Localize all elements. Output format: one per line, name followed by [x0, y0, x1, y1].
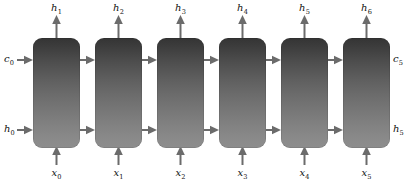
- input-arrow-1: [114, 146, 123, 165]
- output-label-h3: h3: [175, 3, 186, 16]
- rnn-cell-3: [219, 38, 266, 148]
- cell-state-arrow-2: [204, 56, 219, 65]
- input-label-x4: x4: [299, 168, 309, 181]
- cell-state-arrow-3: [266, 56, 281, 65]
- input-label-x5: x5: [361, 168, 371, 181]
- input-arrow-5: [362, 146, 371, 165]
- hidden-state-arrow-1: [142, 126, 157, 135]
- state-in-cell-label-c0: c0: [4, 54, 14, 67]
- hidden-state-arrow-3: [266, 126, 281, 135]
- output-arrow-5: [362, 15, 371, 38]
- input-label-x2: x2: [175, 168, 185, 181]
- input-arrow-0: [52, 146, 61, 165]
- input-label-x3: x3: [237, 168, 247, 181]
- output-arrow-2: [176, 15, 185, 38]
- hidden-state-arrow-in: [17, 126, 33, 135]
- output-label-h6: h6: [361, 3, 372, 16]
- input-arrow-4: [300, 146, 309, 165]
- hidden-state-arrow-4: [328, 126, 343, 135]
- cell-state-arrow-in: [17, 56, 33, 65]
- rnn-cell-0: [33, 38, 80, 148]
- output-arrow-3: [238, 15, 247, 38]
- rnn-cell-5: [343, 38, 390, 148]
- rnn-cell-4: [281, 38, 328, 148]
- input-arrows-bottom: [52, 146, 371, 165]
- output-label-h1: h1: [51, 3, 62, 16]
- cell-state-arrow-4: [328, 56, 343, 65]
- state-out-cell-label-c5: c5: [393, 54, 403, 67]
- state-in-hidden-label-h0: h0: [4, 124, 15, 137]
- output-arrow-4: [300, 15, 309, 38]
- input-label-x1: x1: [113, 168, 123, 181]
- output-label-h2: h2: [113, 3, 124, 16]
- input-arrow-2: [176, 146, 185, 165]
- hidden-state-arrow-2: [204, 126, 219, 135]
- state-out-hidden-label-h5: h5: [393, 124, 404, 137]
- rnn-cell-1: [95, 38, 142, 148]
- hidden-state-arrow-0: [80, 126, 95, 135]
- output-arrow-1: [114, 15, 123, 38]
- output-label-h5: h5: [299, 3, 310, 16]
- rnn-unrolled-diagram: h1 h2 h3 h4 h5 h6 x0 x1 x2 x3 x4 x5 c0 h…: [0, 0, 407, 185]
- output-arrows-top: [52, 15, 371, 38]
- cell-state-arrow-1: [142, 56, 157, 65]
- input-label-x0: x0: [51, 168, 61, 181]
- output-label-h4: h4: [237, 3, 248, 16]
- input-arrow-3: [238, 146, 247, 165]
- cell-state-arrow-0: [80, 56, 95, 65]
- output-arrow-0: [52, 15, 61, 38]
- rnn-cell-2: [157, 38, 204, 148]
